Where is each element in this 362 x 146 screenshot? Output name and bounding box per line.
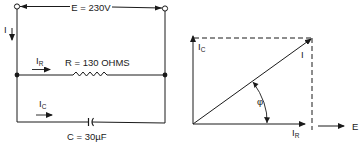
resistor-branch: IR R = 130 OHMS bbox=[15, 55, 168, 77]
source-voltage-label: E = 230V bbox=[71, 2, 111, 13]
left-arrowhead-icon bbox=[20, 4, 27, 9]
capacitor-current-label: IC bbox=[39, 98, 47, 110]
left-terminal-icon bbox=[14, 4, 19, 9]
resistor-value-label: R = 130 OHMS bbox=[65, 57, 130, 68]
diagram-canvas: E = 230V I IR R = 130 OHMS IC C = 30µF bbox=[0, 0, 362, 146]
phase-angle-label: φ bbox=[257, 96, 263, 107]
resistor-symbol-icon bbox=[73, 72, 107, 76]
voltage-reference-label: E bbox=[352, 121, 358, 132]
right-terminal-icon bbox=[162, 6, 167, 11]
total-current-phasor-label: I bbox=[301, 49, 304, 60]
resistive-current-phasor-label: IR bbox=[292, 127, 300, 139]
rc-circuit: E = 230V I IR R = 130 OHMS IC C = 30µF bbox=[4, 2, 168, 143]
capacitor-branch: IC C = 30µF bbox=[17, 98, 165, 142]
capacitor-value-label: C = 30µF bbox=[67, 131, 107, 142]
arc-arrowhead-bottom-icon bbox=[264, 117, 270, 123]
capacitive-current-phasor-label: IC bbox=[198, 41, 206, 53]
right-arrowhead-icon bbox=[155, 6, 162, 11]
total-current-phasor-icon bbox=[193, 39, 311, 124]
arc-arrowhead-top-icon bbox=[253, 82, 259, 88]
phasor-diagram: IC I IR φ E bbox=[193, 36, 358, 139]
total-current-label: I bbox=[4, 24, 7, 35]
resistor-current-label: IR bbox=[36, 55, 44, 67]
